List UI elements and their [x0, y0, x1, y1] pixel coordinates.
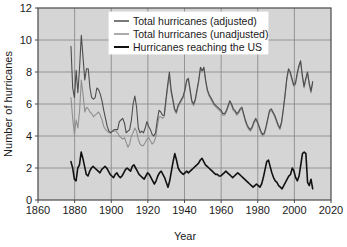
legend-label-2: Hurricanes reaching the US	[133, 41, 262, 53]
y-tick-label: 0	[26, 194, 32, 206]
x-tick-label: 1980	[246, 204, 270, 216]
y-tick-label: 12	[20, 2, 32, 14]
x-tick-label: 1960	[209, 204, 233, 216]
legend-label-0: Total hurricanes (adjusted)	[133, 15, 257, 27]
x-tick-label: 1900	[99, 204, 123, 216]
y-tick-label: 2	[26, 162, 32, 174]
y-tick-label: 6	[26, 98, 32, 110]
x-tick-label: 1920	[136, 204, 160, 216]
legend-label-1: Total hurricanes (unadjusted)	[133, 28, 268, 40]
y-tick-label: 10	[20, 34, 32, 46]
x-tick-label: 1940	[172, 204, 196, 216]
x-axis-title: Year	[174, 230, 197, 242]
y-tick-label: 8	[26, 66, 32, 78]
y-axis-title: Number of hurricanes	[2, 51, 14, 157]
y-tick-label: 4	[26, 130, 32, 142]
chart-canvas: 186018801900192019401960198020002020 024…	[0, 0, 347, 247]
x-tick-label: 1880	[62, 204, 86, 216]
x-tick-label: 2020	[319, 204, 343, 216]
x-tick-label: 2000	[282, 204, 306, 216]
chart-legend: Total hurricanes (adjusted)Total hurrica…	[109, 12, 268, 54]
hurricane-line-chart: 186018801900192019401960198020002020 024…	[0, 0, 347, 247]
